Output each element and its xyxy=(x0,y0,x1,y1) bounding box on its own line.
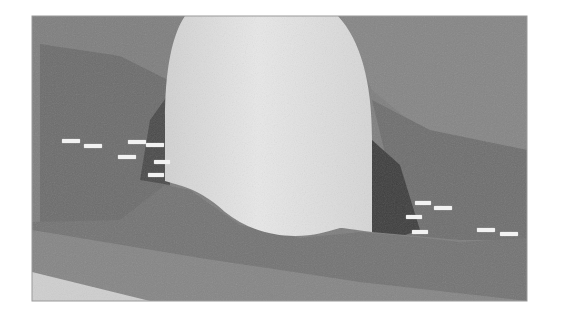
marker-label xyxy=(148,173,164,177)
marker-label xyxy=(406,215,422,219)
marker-label xyxy=(154,160,170,164)
marker-label xyxy=(500,232,518,236)
marker-label xyxy=(477,228,495,232)
geological-model-figure xyxy=(0,0,561,318)
model-render xyxy=(0,0,561,318)
marker-label xyxy=(62,139,80,143)
marker-label xyxy=(146,143,164,147)
marker-label xyxy=(412,230,428,234)
marker-label xyxy=(434,206,452,210)
marker-label xyxy=(118,155,136,159)
marker-label xyxy=(84,144,102,148)
marker-label xyxy=(128,140,146,144)
marker-label xyxy=(415,201,431,205)
